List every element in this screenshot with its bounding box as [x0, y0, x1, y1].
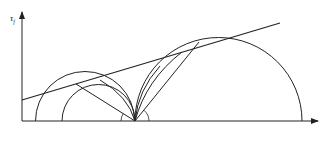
- mohr-circle-diagram: [0, 0, 327, 145]
- angle-arc-right: [144, 110, 149, 121]
- passive-inner-curve-2: [135, 66, 160, 121]
- circle-2-arc: [36, 72, 135, 122]
- strength-envelope-line: [22, 23, 280, 100]
- circle-3-arc: [135, 38, 302, 122]
- tau-axis-label: τf: [10, 14, 15, 25]
- angle-arc-left: [121, 114, 123, 122]
